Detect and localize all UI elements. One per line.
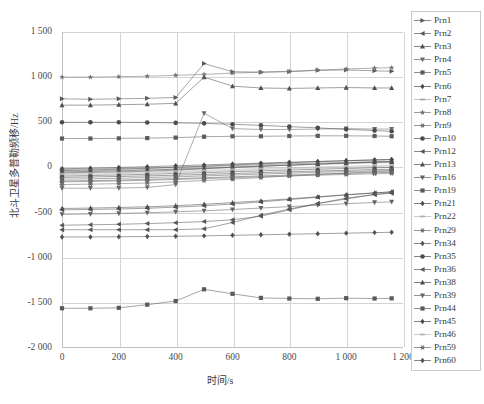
triangle-up-icon <box>413 277 432 288</box>
legend-item[interactable]: Prn6 <box>413 79 478 92</box>
legend-item-label: Prn22 <box>432 212 456 221</box>
legend-item[interactable]: Prn22 <box>413 210 478 223</box>
legend-item[interactable]: Prn44 <box>413 302 478 315</box>
triangle-down-icon <box>413 54 432 65</box>
legend-item[interactable]: Prn5 <box>413 66 478 79</box>
dash-icon <box>413 94 432 105</box>
star-icon <box>413 107 432 118</box>
chart-root: 1 5001 0005000-500-1 000-1 500-2 000 北斗卫… <box>0 0 484 404</box>
legend-item[interactable]: Prn9 <box>413 119 478 132</box>
legend-item-label: Prn19 <box>432 186 456 195</box>
legend-item-label: Prn8 <box>432 108 451 117</box>
circle-icon <box>413 251 432 262</box>
legend-item-label: Prn29 <box>432 226 456 235</box>
legend-item-label: Prn3 <box>432 42 451 51</box>
legend-item-label: Prn60 <box>432 356 456 365</box>
legend-item[interactable]: Prn36 <box>413 263 478 276</box>
data-series <box>60 189 395 210</box>
legend-item[interactable]: Prn7 <box>413 93 478 106</box>
legend: Prn1Prn2Prn3Prn4Prn5Prn6Prn7Prn8Prn9Prn1… <box>411 11 481 371</box>
legend-item[interactable]: Prn29 <box>413 224 478 237</box>
legend-item-label: Prn9 <box>432 121 451 130</box>
data-series <box>60 134 394 141</box>
legend-item[interactable]: Prn16 <box>413 171 478 184</box>
legend-item-label: Prn39 <box>432 291 456 300</box>
data-series <box>60 200 395 217</box>
legend-item[interactable]: Prn13 <box>413 158 478 171</box>
legend-item-label: Prn6 <box>432 82 451 91</box>
legend-item[interactable]: Prn39 <box>413 289 478 302</box>
legend-item-label: Prn59 <box>432 343 456 352</box>
legend-item-label: Prn5 <box>432 68 451 77</box>
data-series <box>60 74 395 107</box>
triangle-up-icon <box>413 159 432 170</box>
legend-item[interactable]: Prn4 <box>413 53 478 66</box>
legend-item[interactable]: Prn35 <box>413 250 478 263</box>
legend-item[interactable]: Prn8 <box>413 106 478 119</box>
legend-item[interactable]: Prn3 <box>413 40 478 53</box>
legend-item-label: Prn10 <box>432 134 456 143</box>
triangle-right-icon <box>413 15 432 26</box>
asterisk-icon <box>413 225 432 236</box>
diamond-icon <box>413 238 432 249</box>
diamond-icon <box>413 198 432 209</box>
legend-item-label: Prn12 <box>432 147 456 156</box>
triangle-up-icon <box>413 41 432 52</box>
legend-item-label: Prn16 <box>432 173 456 182</box>
square-icon <box>413 303 432 314</box>
legend-item[interactable]: Prn21 <box>413 197 478 210</box>
legend-item-label: Prn38 <box>432 278 456 287</box>
legend-item-label: Prn46 <box>432 330 456 339</box>
legend-item[interactable]: Prn38 <box>413 276 478 289</box>
legend-item-label: Prn13 <box>432 160 456 169</box>
diamond-icon <box>413 316 432 327</box>
legend-item[interactable]: Prn60 <box>413 354 478 367</box>
data-series <box>60 111 395 191</box>
data-series <box>60 230 394 240</box>
legend-item[interactable]: Prn2 <box>413 27 478 40</box>
legend-item[interactable]: Prn46 <box>413 328 478 341</box>
legend-item-label: Prn1 <box>432 16 451 25</box>
triangle-down-icon <box>413 290 432 301</box>
triangle-left-icon <box>413 28 432 39</box>
legend-item[interactable]: Prn10 <box>413 132 478 145</box>
data-series <box>60 287 394 310</box>
legend-item-label: Prn7 <box>432 95 451 104</box>
legend-item[interactable]: Prn19 <box>413 184 478 197</box>
legend-item-label: Prn45 <box>432 317 456 326</box>
dash-icon <box>413 211 432 222</box>
asterisk-icon <box>413 120 432 131</box>
diamond-icon <box>413 355 432 366</box>
legend-item[interactable]: Prn1 <box>413 14 478 27</box>
data-series <box>60 61 394 102</box>
triangle-down-icon <box>413 172 432 183</box>
data-series <box>59 189 393 212</box>
legend-item[interactable]: Prn59 <box>413 341 478 354</box>
legend-item-label: Prn44 <box>432 304 456 313</box>
circle-icon <box>413 133 432 144</box>
diamond-icon <box>413 81 432 92</box>
triangle-left-icon <box>413 264 432 275</box>
data-series <box>59 190 393 232</box>
legend-item[interactable]: Prn12 <box>413 145 478 158</box>
square-icon <box>413 185 432 196</box>
triangle-left-icon <box>413 146 432 157</box>
dash-icon <box>413 329 432 340</box>
legend-item-label: Prn4 <box>432 55 451 64</box>
legend-item-label: Prn35 <box>432 252 456 261</box>
asterisk-icon <box>413 342 432 353</box>
legend-item-label: Prn2 <box>432 29 451 38</box>
legend-item[interactable]: Prn34 <box>413 237 478 250</box>
square-icon <box>413 67 432 78</box>
legend-item-label: Prn21 <box>432 199 456 208</box>
legend-item[interactable]: Prn45 <box>413 315 478 328</box>
legend-item-label: Prn34 <box>432 239 456 248</box>
legend-item-label: Prn36 <box>432 265 456 274</box>
data-series <box>60 120 394 134</box>
